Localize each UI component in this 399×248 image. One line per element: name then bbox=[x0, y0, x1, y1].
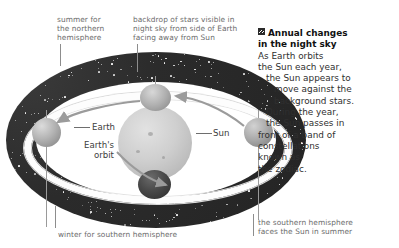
leader-line-backdrop-stars bbox=[137, 44, 138, 72]
star-dot bbox=[64, 96, 66, 98]
sun-sphere bbox=[118, 106, 192, 180]
earth-left-leader bbox=[46, 145, 47, 227]
star-dot bbox=[218, 73, 219, 74]
star-dot bbox=[97, 207, 98, 208]
label-southern-summer: the southern hemisphere faces the Sun in… bbox=[258, 218, 353, 236]
label-backdrop-stars: backdrop of stars visible in night sky f… bbox=[133, 15, 237, 43]
star-dot bbox=[178, 64, 179, 65]
caption-heading: Annual changes bbox=[258, 28, 398, 39]
diagram-canvas: summer for the northern hemisphere backd… bbox=[0, 0, 399, 248]
caption-heading-line2: in the night sky bbox=[258, 39, 398, 50]
star-dot bbox=[98, 68, 99, 69]
star-dot bbox=[205, 76, 206, 77]
caption-line: During the year, bbox=[258, 107, 398, 118]
caption-line: the zodiac. bbox=[258, 164, 398, 175]
star-dot bbox=[62, 97, 63, 98]
double-chevron-left-icon bbox=[258, 28, 265, 35]
star-dot bbox=[211, 68, 212, 69]
star-dot bbox=[179, 209, 180, 210]
star-dot bbox=[226, 204, 227, 205]
caption-body: As Earth orbits the Sun each year, the S… bbox=[258, 51, 398, 175]
star-dot bbox=[216, 216, 217, 217]
sun-surface-mark bbox=[148, 132, 153, 136]
sun-surface-mark bbox=[162, 156, 165, 159]
star-dot bbox=[141, 79, 142, 80]
star-dot bbox=[155, 54, 156, 55]
star-dot bbox=[124, 224, 126, 226]
star-dot bbox=[111, 216, 112, 217]
caption-line: the Sun each year, bbox=[258, 62, 398, 73]
star-dot bbox=[130, 224, 131, 225]
caption-line: background stars. bbox=[258, 96, 398, 107]
star-dot bbox=[248, 190, 250, 192]
star-dot bbox=[34, 113, 35, 114]
star-dot bbox=[120, 69, 121, 70]
star-dot bbox=[113, 74, 115, 76]
star-dot bbox=[18, 165, 20, 167]
star-dot bbox=[110, 209, 111, 210]
leader-dash-sun bbox=[196, 133, 212, 134]
star-dot bbox=[169, 220, 170, 221]
star-dot bbox=[161, 59, 162, 60]
star-dot bbox=[199, 59, 200, 60]
star-dot bbox=[176, 214, 178, 216]
caption-line: move against the bbox=[258, 84, 398, 95]
label-earth-orbit: Earth's orbit bbox=[68, 140, 114, 161]
star-dot bbox=[52, 99, 53, 100]
star-dot bbox=[68, 77, 69, 78]
sun-surface-mark bbox=[136, 150, 140, 153]
star-dot bbox=[150, 61, 151, 62]
leader-line-summer-northern bbox=[60, 44, 61, 66]
star-dot bbox=[147, 77, 148, 78]
star-dot bbox=[195, 208, 196, 209]
leader-line-winter-southern bbox=[55, 206, 56, 228]
star-dot bbox=[21, 131, 22, 132]
caption-line: As Earth orbits bbox=[258, 51, 398, 62]
star-dot bbox=[120, 210, 121, 211]
label-earth: Earth bbox=[92, 122, 115, 132]
caption-line: front of a band of bbox=[258, 130, 398, 141]
star-dot bbox=[26, 122, 27, 123]
star-dot bbox=[186, 79, 187, 80]
star-dot bbox=[111, 63, 113, 65]
star-dot bbox=[44, 99, 46, 101]
star-dot bbox=[34, 173, 36, 175]
star-dot bbox=[146, 220, 147, 221]
label-winter-southern: winter for southern hemisphere bbox=[58, 230, 177, 239]
earth-left bbox=[32, 118, 61, 147]
caption-block: Annual changes in the night sky As Earth… bbox=[258, 28, 398, 175]
star-dot bbox=[90, 213, 91, 214]
caption-line: constellations bbox=[258, 141, 398, 152]
star-dot bbox=[248, 73, 249, 74]
earth-top bbox=[140, 84, 171, 111]
star-dot bbox=[170, 75, 172, 77]
star-dot bbox=[153, 62, 154, 63]
star-dot bbox=[152, 81, 153, 82]
star-dot bbox=[113, 60, 114, 61]
star-dot bbox=[149, 204, 150, 205]
star-dot bbox=[67, 199, 68, 200]
star-dot bbox=[11, 158, 12, 159]
label-summer-northern: summer for the northern hemisphere bbox=[57, 15, 104, 43]
label-sun: Sun bbox=[213, 128, 229, 138]
caption-heading-line1: Annual changes bbox=[268, 28, 348, 38]
earth-bottom bbox=[138, 170, 171, 199]
star-dot bbox=[151, 77, 153, 79]
star-dot bbox=[82, 205, 83, 206]
star-dot bbox=[248, 86, 249, 87]
star-dot bbox=[12, 152, 13, 153]
star-dot bbox=[100, 208, 101, 209]
star-dot bbox=[107, 71, 108, 72]
star-dot bbox=[22, 106, 23, 107]
star-dot bbox=[223, 217, 224, 218]
star-dot bbox=[128, 81, 130, 83]
caption-line: the Sun appears to bbox=[258, 73, 398, 84]
star-dot bbox=[282, 177, 283, 178]
star-dot bbox=[208, 61, 210, 63]
star-dot bbox=[20, 155, 21, 156]
caption-line: known as bbox=[258, 152, 398, 163]
caption-line: the Sun passes in bbox=[258, 118, 398, 129]
leader-dash-earth bbox=[74, 127, 90, 128]
star-dot bbox=[98, 71, 99, 72]
star-dot bbox=[111, 212, 112, 213]
